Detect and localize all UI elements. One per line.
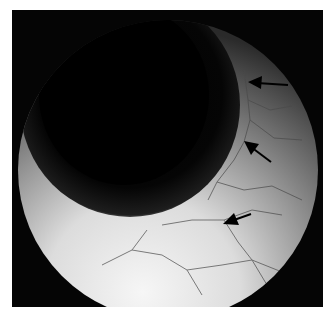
- scope-circle: [12, 10, 323, 307]
- image-frame: [12, 10, 323, 307]
- endoscopic-view: [12, 10, 323, 307]
